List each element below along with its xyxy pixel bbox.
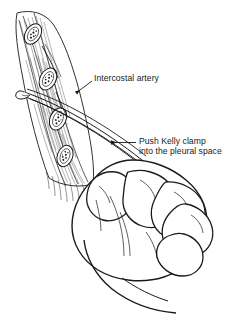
illustration-canvas bbox=[0, 0, 243, 314]
annotation-line-1: Push Kelly clamp bbox=[139, 136, 222, 146]
medical-illustration-figure: Intercostal artery Push Kelly clamp into… bbox=[0, 0, 243, 314]
annotation-intercostal-artery: Intercostal artery bbox=[94, 73, 159, 83]
annotation-line-2: into the pleural space bbox=[139, 146, 222, 156]
annotation-push-kelly-clamp: Push Kelly clamp into the pleural space bbox=[139, 136, 222, 157]
